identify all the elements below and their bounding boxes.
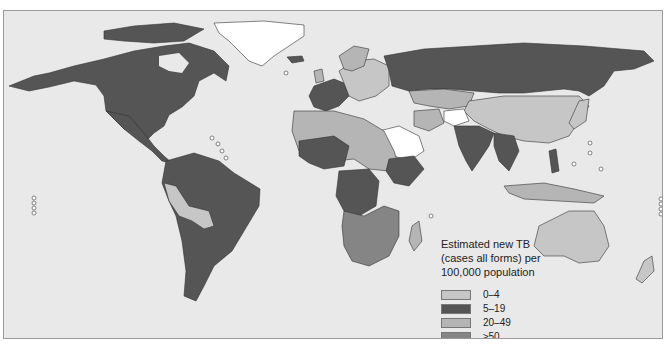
legend-item-0-4: 0–4 (441, 288, 561, 301)
legend-label: ≥50 (483, 331, 500, 339)
legend-swatch (441, 290, 471, 300)
region-north-america (9, 43, 229, 143)
island-marker (32, 196, 36, 200)
legend-title-line-1: Estimated new TB (441, 237, 561, 251)
legend-label: 20–49 (483, 317, 511, 328)
region-india (454, 126, 494, 171)
legend-swatch (441, 304, 471, 314)
legend-item-5-19: 5–19 (441, 302, 561, 315)
legend-title-line-2: (cases all forms) per (441, 251, 561, 265)
region-southern-africa (342, 206, 399, 266)
legend-item-20-49: 20–49 (441, 316, 561, 329)
map-frame: Estimated new TB (cases all forms) per 1… (3, 10, 663, 339)
legend-title: Estimated new TB (cases all forms) per 1… (441, 237, 561, 279)
legend-swatch (441, 332, 471, 340)
legend-swatch (441, 318, 471, 328)
legend-label: 5–19 (483, 303, 505, 314)
world-map (4, 11, 663, 339)
region-afghanistan (444, 109, 469, 126)
legend: Estimated new TB (cases all forms) per 1… (441, 237, 561, 339)
region-central-africa (336, 169, 379, 216)
legend-label: 0–4 (483, 289, 500, 300)
region-russia (384, 43, 654, 96)
legend-item-50-plus: ≥50 (441, 330, 561, 339)
region-arctic-islands (104, 23, 204, 43)
region-europe-west (309, 79, 349, 111)
legend-title-line-3: 100,000 population (441, 265, 561, 279)
